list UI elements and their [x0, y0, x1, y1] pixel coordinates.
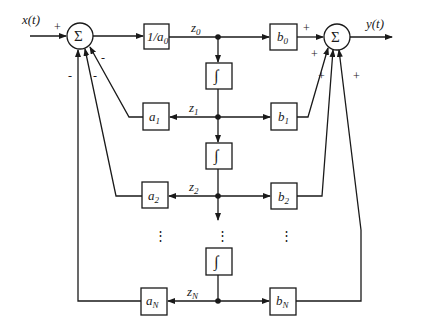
ellipsis-b: ⋮ [280, 228, 293, 243]
integrator-N: ∫ [206, 248, 232, 275]
svg-text:+: + [303, 21, 310, 35]
input-signal: x(t) + [21, 12, 66, 36]
input-label: x(t) [21, 12, 40, 27]
svg-text:+: + [318, 69, 325, 83]
output-summer: Σ [324, 24, 350, 50]
sigma-icon: Σ [74, 28, 83, 44]
gain-box-bN: bN [270, 288, 296, 315]
gain-box-a2: a2 [142, 182, 168, 208]
gain-box-b0: b0 [270, 24, 297, 50]
output-label: y(t) [364, 16, 384, 31]
gain-box-b2: b2 [271, 183, 297, 209]
svg-text:+: + [54, 20, 61, 34]
svg-text:+: + [353, 69, 360, 83]
gain-box-a1: a1 [143, 103, 169, 130]
state-zN-label: zN [186, 284, 199, 301]
state-z1-label: z1 [188, 100, 199, 117]
gain-box-b1: b1 [271, 103, 297, 130]
integrator-2: ∫ [206, 143, 232, 169]
sigma-icon: Σ [331, 29, 340, 45]
ellipsis-int: ⋮ [216, 228, 229, 243]
ellipsis-a: ⋮ [154, 228, 167, 243]
svg-text:-: - [101, 51, 105, 65]
gain-box-1-over-a0: 1/a0 [144, 24, 169, 49]
integrator-1: ∫ [206, 63, 232, 89]
svg-text:-: - [68, 69, 72, 83]
gain-box-aN: aN [141, 288, 167, 315]
svg-text:+: + [311, 47, 318, 61]
block-diagram: x(t) + Σ 1/a0 z0 b0 + Σ y(t) ∫ z1 a1 [0, 0, 431, 333]
state-z2-label: z2 [188, 179, 199, 196]
svg-text:-: - [93, 69, 97, 83]
state-z0-label: z0 [190, 20, 201, 37]
input-summer: Σ [67, 23, 93, 49]
